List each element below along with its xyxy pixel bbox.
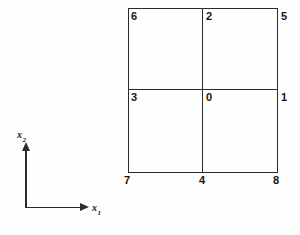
figure-canvas: 6 2 5 3 0 1 7 4 8 x2 x1	[0, 0, 300, 235]
node-label-0: 0	[206, 92, 212, 103]
node-label-6: 6	[131, 11, 137, 22]
node-label-3: 3	[131, 92, 137, 103]
node-label-7: 7	[124, 175, 130, 186]
node-label-2: 2	[206, 11, 212, 22]
node-label-8: 8	[273, 175, 279, 186]
x-axis-line	[25, 207, 81, 209]
node-label-4: 4	[199, 175, 205, 186]
x-axis-arrowhead-icon	[80, 203, 89, 211]
node-label-5: 5	[281, 11, 287, 22]
grid-line-left	[128, 8, 129, 173]
y-axis-label-subscript: 2	[23, 136, 27, 144]
y-axis-line	[25, 150, 27, 208]
x-axis-label-text: x	[92, 202, 97, 213]
y-axis-label-text: x	[17, 129, 22, 140]
node-label-1: 1	[281, 92, 287, 103]
x-axis-label: x1	[92, 203, 101, 216]
x-axis-label-subscript: 1	[98, 209, 102, 217]
grid-line-right	[277, 8, 278, 173]
y-axis-label: x2	[17, 130, 26, 143]
grid-line-vertical-mid	[202, 8, 203, 173]
